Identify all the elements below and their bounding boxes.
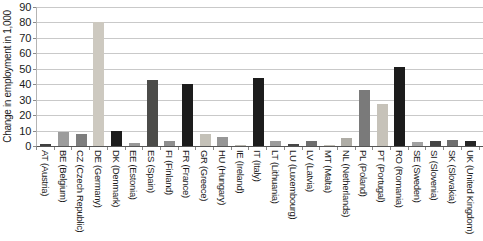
bar-ee — [129, 143, 140, 146]
x-axis-tick — [390, 147, 391, 150]
bar-lv — [306, 141, 317, 146]
y-axis-tick — [33, 7, 36, 8]
x-tick-label: BE (Belgium) — [56, 150, 70, 240]
x-axis-tick — [337, 147, 338, 150]
x-axis-tick — [71, 147, 72, 150]
gridline — [37, 7, 483, 8]
bar-se — [412, 142, 423, 146]
y-tick-label: 0 — [5, 140, 31, 152]
bar-sk — [447, 140, 458, 146]
x-tick-label: LV (Latvia) — [303, 150, 317, 240]
x-tick-label: CZ (Czech Republic) — [73, 150, 87, 240]
y-axis-tick — [33, 53, 36, 54]
y-tick-label: 90 — [5, 1, 31, 13]
y-axis-tick — [33, 38, 36, 39]
x-tick-label: SI (Slovenia) — [427, 150, 441, 240]
x-axis-tick — [479, 147, 480, 150]
x-tick-label: MT (Malta) — [321, 150, 335, 240]
x-axis-tick — [425, 147, 426, 150]
bar-pt — [377, 104, 388, 146]
x-tick-label: HU (Hungary) — [215, 150, 229, 240]
x-tick-label: PL (Poland) — [356, 150, 370, 240]
x-axis-tick — [107, 147, 108, 150]
y-tick-label: 40 — [5, 78, 31, 90]
employment-change-bar-chart: Change in employment in 1,000 0102030405… — [0, 0, 483, 241]
x-tick-label: FR (France) — [179, 150, 193, 240]
x-axis-tick — [284, 147, 285, 150]
x-axis-tick — [408, 147, 409, 150]
x-axis-tick — [213, 147, 214, 150]
y-tick-label: 20 — [5, 109, 31, 121]
bar-de — [93, 22, 104, 146]
x-axis-tick — [319, 147, 320, 150]
x-tick-label: FI (Finland) — [162, 150, 176, 240]
bar-dk — [111, 131, 122, 146]
bar-gr — [200, 134, 211, 146]
x-tick-label: RO (Romania) — [392, 150, 406, 240]
bar-at — [40, 144, 51, 146]
x-tick-label: EE (Estonia) — [126, 150, 140, 240]
x-axis-tick — [36, 147, 37, 150]
x-tick-label: AT (Austria) — [38, 150, 52, 240]
plot-area — [36, 7, 483, 147]
bar-ro — [394, 67, 405, 146]
x-tick-label: ES (Spain) — [144, 150, 158, 240]
bar-lu — [288, 144, 299, 146]
bar-pl — [359, 90, 370, 146]
bar-uk — [465, 141, 476, 146]
x-axis-tick — [142, 147, 143, 150]
y-tick-label: 50 — [5, 63, 31, 75]
x-tick-label: IT (Italy) — [250, 150, 264, 240]
bar-fr — [182, 84, 193, 146]
y-axis-tick — [33, 69, 36, 70]
bar-lt — [270, 141, 281, 146]
y-axis-tick — [33, 84, 36, 85]
y-tick-label: 30 — [5, 94, 31, 106]
y-tick-label: 70 — [5, 32, 31, 44]
x-tick-label: LT (Lithuania) — [268, 150, 282, 240]
x-tick-label: DK (Denmark) — [109, 150, 123, 240]
y-axis-tick — [33, 115, 36, 116]
x-axis-tick — [54, 147, 55, 150]
x-axis-tick — [372, 147, 373, 150]
x-axis-tick — [231, 147, 232, 150]
x-axis-tick — [248, 147, 249, 150]
bar-nl — [341, 138, 352, 146]
x-tick-label: LU (Luxembourg) — [286, 150, 300, 240]
bar-cz — [76, 134, 87, 146]
x-axis-tick — [461, 147, 462, 150]
x-axis-tick — [195, 147, 196, 150]
y-axis-tick — [33, 22, 36, 23]
x-tick-label: SK (Slovakia) — [445, 150, 459, 240]
y-axis-tick — [33, 131, 36, 132]
y-tick-label: 60 — [5, 47, 31, 59]
x-axis-tick — [160, 147, 161, 150]
y-tick-label: 10 — [5, 125, 31, 137]
bar-si — [430, 141, 441, 146]
x-tick-label: NL (Netherlands) — [339, 150, 353, 240]
x-tick-label: DE (Germany) — [91, 150, 105, 240]
x-tick-label: UK (United Kingdom) — [463, 150, 477, 240]
x-tick-label: PT (Portugal) — [374, 150, 388, 240]
y-tick-label: 80 — [5, 16, 31, 28]
x-axis-tick — [89, 147, 90, 150]
x-axis-tick — [266, 147, 267, 150]
x-tick-label: IE (Ireland) — [233, 150, 247, 240]
y-axis-tick — [33, 100, 36, 101]
bar-fi — [164, 141, 175, 146]
x-tick-label: GR (Greece) — [197, 150, 211, 240]
bar-hu — [217, 137, 228, 146]
bar-mt — [324, 145, 335, 146]
x-tick-label: SE (Sweden) — [410, 150, 424, 240]
bar-it — [253, 78, 264, 146]
bar-be — [58, 132, 69, 146]
x-axis-tick — [443, 147, 444, 150]
bar-ie — [235, 145, 246, 146]
bar-es — [147, 80, 158, 146]
